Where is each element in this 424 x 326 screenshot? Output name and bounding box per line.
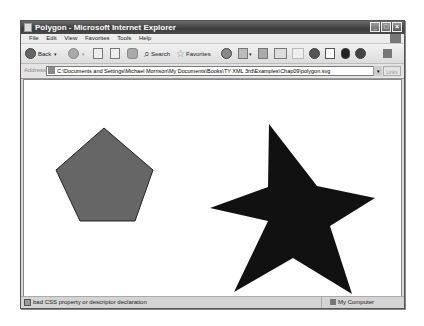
page-content xyxy=(23,79,402,297)
svg-canvas xyxy=(24,80,403,296)
address-dropdown-button[interactable]: ▾ xyxy=(373,66,382,76)
menu-favorites[interactable]: Favorites xyxy=(85,34,110,43)
star-shape xyxy=(210,124,375,294)
bluetooth-button[interactable] xyxy=(341,47,350,60)
back-label: Back xyxy=(38,51,51,57)
search-button[interactable]: ⌕ Search xyxy=(144,47,170,60)
bluetooth-icon xyxy=(341,48,350,59)
menu-help[interactable]: Help xyxy=(139,34,151,43)
mail-icon xyxy=(238,48,248,59)
title-bar[interactable]: Polygon - Microsoft Internet Explorer _ … xyxy=(21,21,404,34)
zone-label: My Computer xyxy=(338,299,374,305)
menu-file[interactable]: File xyxy=(29,34,39,43)
pentagon-shape xyxy=(56,128,153,221)
menu-edit[interactable]: Edit xyxy=(46,34,56,43)
back-dropdown-icon[interactable]: ▾ xyxy=(54,51,57,57)
close-button[interactable]: × xyxy=(392,22,402,32)
print-icon xyxy=(258,48,268,59)
history-icon xyxy=(221,48,232,59)
favorites-button[interactable]: ☆ Favorites xyxy=(176,47,211,60)
maximize-button[interactable]: □ xyxy=(381,22,391,32)
refresh-button[interactable] xyxy=(110,47,120,60)
menu-tools[interactable]: Tools xyxy=(117,34,131,43)
discuss-icon xyxy=(292,48,304,59)
back-button[interactable]: Back ▾ xyxy=(25,47,57,60)
computer-icon xyxy=(330,299,336,305)
menu-view[interactable]: View xyxy=(64,34,77,43)
page-icon xyxy=(48,67,55,74)
research-button[interactable] xyxy=(325,47,335,60)
refresh-icon xyxy=(110,48,120,59)
print-button[interactable] xyxy=(258,47,268,60)
tools-icon xyxy=(383,49,392,58)
stop-icon xyxy=(93,48,103,59)
menu-bar: File Edit View Favorites Tools Help xyxy=(21,34,404,44)
search-label: Search xyxy=(151,51,170,57)
ie-app-icon xyxy=(24,23,32,32)
windows-logo-icon xyxy=(390,34,401,43)
media-button[interactable] xyxy=(355,47,366,60)
messenger-icon xyxy=(309,48,320,59)
security-zone: My Computer xyxy=(321,297,374,308)
home-button[interactable] xyxy=(127,47,138,60)
discuss-button[interactable] xyxy=(292,47,304,60)
forward-icon xyxy=(68,48,79,59)
stop-button[interactable] xyxy=(93,47,103,60)
address-value: C:\Documents and Settings\Michael Morris… xyxy=(57,68,330,74)
tools-button[interactable] xyxy=(383,47,392,60)
history-button[interactable] xyxy=(221,47,232,60)
mail-button[interactable]: ▾ xyxy=(238,47,252,60)
back-icon xyxy=(25,48,36,59)
research-icon xyxy=(325,48,335,59)
browser-window: Polygon - Microsoft Internet Explorer _ … xyxy=(20,20,405,309)
favorites-label: Favorites xyxy=(186,51,211,57)
links-button[interactable]: Links xyxy=(383,66,401,76)
standard-toolbar: Back ▾ ▾ ⌕ Search ☆ Favorites ▾ xyxy=(21,44,404,64)
window-title: Polygon - Microsoft Internet Explorer xyxy=(35,21,176,34)
status-message: bad CSS property or descriptor declarati… xyxy=(33,297,147,308)
forward-dropdown-icon: ▾ xyxy=(82,51,85,57)
address-label: Address xyxy=(24,67,46,73)
error-icon[interactable] xyxy=(24,299,31,306)
media-icon xyxy=(355,48,366,59)
forward-button[interactable]: ▾ xyxy=(68,47,85,60)
favorites-icon: ☆ xyxy=(176,48,185,59)
status-bar: bad CSS property or descriptor declarati… xyxy=(21,296,404,308)
home-icon xyxy=(127,48,138,59)
edit-icon xyxy=(274,48,287,59)
messenger-button[interactable] xyxy=(309,47,320,60)
address-input[interactable]: C:\Documents and Settings\Michael Morris… xyxy=(46,66,381,76)
address-bar: Address C:\Documents and Settings\Michae… xyxy=(21,64,404,79)
minimize-button[interactable]: _ xyxy=(370,22,380,32)
edit-button[interactable] xyxy=(274,47,287,60)
search-icon: ⌕ xyxy=(144,48,150,60)
